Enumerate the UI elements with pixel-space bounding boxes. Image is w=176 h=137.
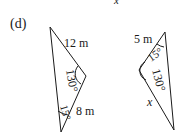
right-side-top-label: 5 m xyxy=(134,32,153,46)
right-angle-130-label: 130° xyxy=(149,67,168,93)
diagram-canvas: x 12 m 8 m 130° 15° 5 m x 15° 130° xyxy=(0,0,176,137)
right-side-x-label: x xyxy=(146,95,153,109)
right-angle-15-label: 15° xyxy=(145,45,165,64)
left-side-bottom-label: 8 m xyxy=(76,104,95,118)
left-angle-15-label: 15° xyxy=(58,103,74,121)
top-fragment-x: x xyxy=(113,0,119,6)
left-side-top-label: 12 m xyxy=(64,36,89,50)
left-angle-130-label: 130° xyxy=(63,68,81,93)
